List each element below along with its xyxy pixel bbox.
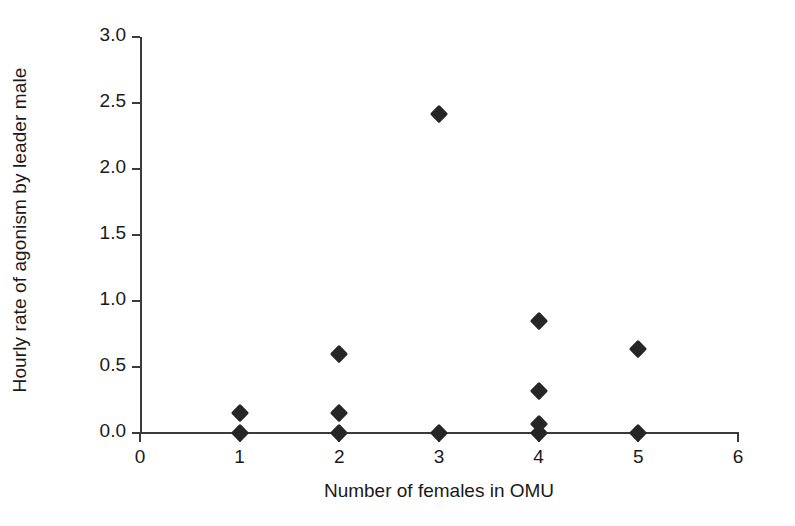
y-axis-label: Hourly rate of agonism by leader male — [0, 10, 40, 450]
y-tick-label: 3.0 — [100, 24, 126, 46]
data-point-marker — [330, 345, 348, 363]
x-axis-label: Number of females in OMU — [140, 480, 738, 502]
x-tick-label: 4 — [533, 446, 544, 468]
data-point-marker — [629, 339, 647, 357]
x-tick-label: 0 — [135, 446, 146, 468]
scatter-plot-figure: Hourly rate of agonism by leader male 0.… — [0, 0, 795, 526]
y-tick-label: 0.5 — [100, 354, 126, 376]
x-tick: 0 — [139, 433, 141, 442]
y-tick: 2.0 — [132, 168, 140, 170]
data-point-marker — [430, 104, 448, 122]
y-tick: 2.5 — [132, 102, 140, 104]
data-point-marker — [330, 424, 348, 442]
data-point-marker — [529, 382, 547, 400]
data-point-marker — [330, 404, 348, 422]
y-tick: 3.0 — [132, 36, 140, 38]
x-tick-label: 1 — [234, 446, 245, 468]
y-axis-line — [140, 37, 142, 434]
y-tick-label: 1.0 — [100, 288, 126, 310]
x-tick-label: 3 — [434, 446, 445, 468]
y-tick-label: 1.5 — [100, 222, 126, 244]
data-point-marker — [529, 312, 547, 330]
data-point-marker — [430, 424, 448, 442]
y-tick: 0.5 — [132, 366, 140, 368]
data-point-marker — [230, 424, 248, 442]
y-tick-label: 2.0 — [100, 156, 126, 178]
x-tick-label: 2 — [334, 446, 345, 468]
y-tick: 1.0 — [132, 300, 140, 302]
plot-area: 0.00.51.01.52.02.53.0 0123456 — [140, 37, 738, 433]
y-tick-label: 0.0 — [100, 420, 126, 442]
x-tick: 6 — [737, 433, 739, 442]
data-point-marker — [629, 424, 647, 442]
x-tick-label: 5 — [633, 446, 644, 468]
data-point-marker — [230, 404, 248, 422]
y-tick-label: 2.5 — [100, 90, 126, 112]
x-tick-label: 6 — [733, 446, 744, 468]
y-tick: 1.5 — [132, 234, 140, 236]
